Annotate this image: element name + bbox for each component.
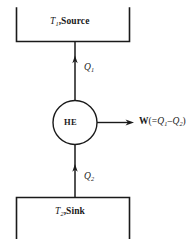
sink-reservoir-label: T2,Sink xyxy=(55,207,85,217)
q1-symbol: Q xyxy=(84,62,91,72)
work-term1-subscript: 1 xyxy=(164,120,167,127)
heat-engine-label: HE xyxy=(64,118,77,127)
source-reservoir-label: T1,Source xyxy=(50,17,90,27)
heat-engine-diagram: T1,Source T2,Sink Q1 Q2 HE W(=Q1–Q2) xyxy=(0,0,191,239)
heat-input-q1-label: Q1 xyxy=(84,63,94,73)
source-reservoir-name: Source xyxy=(61,16,89,26)
q1-subscript: 1 xyxy=(91,66,94,73)
work-symbol: W xyxy=(139,116,149,126)
q2-symbol: Q xyxy=(84,171,91,181)
work-close-paren: ) xyxy=(183,116,186,126)
sink-temperature-subscript: 2 xyxy=(60,210,63,217)
sink-reservoir-outline xyxy=(17,198,130,240)
work-term2-subscript: 2 xyxy=(179,120,182,127)
source-temperature-subscript: 1 xyxy=(55,20,58,27)
sink-reservoir-name: Sink xyxy=(66,206,85,216)
heat-output-q2-label: Q2 xyxy=(84,172,94,182)
q2-subscript: 2 xyxy=(91,175,94,182)
work-output-label: W(=Q1–Q2) xyxy=(139,117,186,127)
